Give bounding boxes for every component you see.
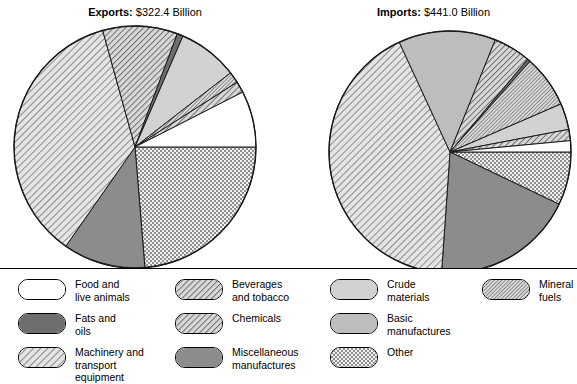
imports-chart: Imports: $441.0 Billion Other: 7.1%Misce…: [290, 0, 577, 268]
exports-title: Exports: $322.4 Billion: [0, 6, 290, 19]
legend-swatch-hatch-med: [175, 279, 223, 300]
legend-column-1: Food and live animals Fats and oils: [18, 277, 163, 379]
imports-title-label: Imports:: [377, 6, 421, 18]
legend-item-label: Crude materials: [387, 277, 430, 303]
legend-swatch-svg: [331, 348, 377, 367]
legend-item[interactable]: Other: [330, 345, 475, 373]
legend-item-label: Food and live animals: [75, 277, 130, 303]
legend-swatch-svg: [331, 314, 377, 333]
imports-title: Imports: $441.0 Billion: [290, 6, 577, 19]
legend-item-label: Basic manufactures: [387, 311, 451, 337]
legend-item[interactable]: Chemicals: [175, 311, 315, 339]
exports-pie-svg: Other: 23.7%Miscellaneous manufactures: …: [0, 22, 290, 268]
legend-swatch-gray-mid: [330, 313, 378, 334]
legend-item[interactable]: Mineral fuels: [482, 277, 577, 305]
exports-chart: Exports: $322.4 Billion Other: 23.7%Misc…: [0, 0, 290, 268]
exports-title-label: Exports:: [88, 6, 133, 18]
legend-swatch-svg: [331, 280, 377, 299]
legend-item-label: Other: [387, 345, 413, 359]
charts-container: Exports: $322.4 Billion Other: 23.7%Misc…: [0, 0, 577, 268]
pie-slice: Other: 23.7%: [135, 147, 256, 268]
legend-item-label: Miscellaneous manufactures: [232, 345, 299, 371]
legend-item-label: Fats and oils: [75, 311, 116, 337]
legend-item-label: Mineral fuels: [539, 277, 573, 303]
legend-item[interactable]: Miscellaneous manufactures: [175, 345, 315, 373]
legend-swatch-svg: [176, 314, 222, 333]
legend-column-2: Beverages and tobacco Chemicals: [175, 277, 315, 379]
legend-swatch-solid-mid: [175, 347, 223, 368]
legend-swatch-hatch-med: [175, 313, 223, 334]
legend-swatch-svg: [19, 348, 65, 367]
exports-title-value: $322.4 Billion: [136, 6, 202, 18]
legend-swatch-solid-dark: [18, 313, 66, 334]
legend-swatch-svg: [176, 280, 222, 299]
legend-swatch-svg: [483, 280, 529, 299]
imports-title-value: $441.0 Billion: [424, 6, 490, 18]
legend-item[interactable]: Fats and oils: [18, 311, 163, 339]
legend-swatch-hatch-fine: [482, 279, 530, 300]
legend-swatch-svg: [19, 314, 65, 333]
legend-item-label: Machinery and transport equipment: [75, 345, 163, 384]
legend-swatch-svg: [19, 280, 65, 299]
legend-column-3: Crude materials Basic manufactures: [330, 277, 475, 379]
legend-item-label: Beverages and tobacco: [232, 277, 289, 303]
legend-item[interactable]: Machinery and transport equipment: [18, 345, 163, 373]
legend-swatch-gray-light: [330, 279, 378, 300]
legend-swatch-checker: [330, 347, 378, 368]
legend: Food and live animals Fats and oils: [0, 268, 577, 378]
legend-item[interactable]: Basic manufactures: [330, 311, 475, 339]
legend-item-label: Chemicals: [232, 311, 281, 325]
legend-item[interactable]: Crude materials: [330, 277, 475, 305]
legend-swatch-hatch-light: [18, 347, 66, 368]
legend-swatch-svg: [176, 348, 222, 367]
legend-item[interactable]: Food and live animals: [18, 277, 163, 305]
legend-column-4: Mineral fuels: [482, 277, 577, 311]
legend-swatch-white: [18, 279, 66, 300]
imports-pie-svg: Other: 7.1%Miscellaneous manufactures: 1…: [290, 22, 577, 268]
legend-item[interactable]: Beverages and tobacco: [175, 277, 315, 305]
